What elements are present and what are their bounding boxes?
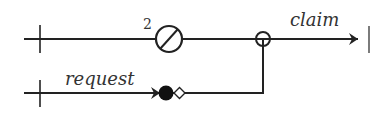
- marker-count: 2: [143, 16, 152, 32]
- slashed-circle-icon: [156, 26, 182, 52]
- top-line: 2 claim: [24, 9, 369, 53]
- filled-circle-icon: [159, 86, 174, 101]
- claim-label: claim: [290, 9, 339, 30]
- diagram-canvas: 2 claim request: [0, 0, 387, 113]
- request-label: request: [65, 68, 135, 89]
- open-diamond-icon: [174, 88, 185, 99]
- bottom-line: request: [24, 68, 264, 107]
